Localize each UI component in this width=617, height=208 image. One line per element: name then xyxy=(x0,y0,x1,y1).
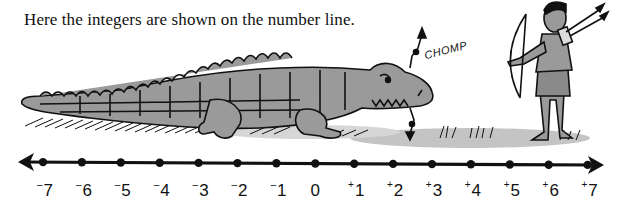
tick-label: –4 xyxy=(154,182,170,199)
tick-digit: 6 xyxy=(82,181,91,200)
tick-digit: 6 xyxy=(549,181,558,200)
tick-digit: 7 xyxy=(44,181,53,200)
tick-digit: 1 xyxy=(277,181,286,200)
tick-label: –5 xyxy=(115,182,131,199)
sign-superscript: – xyxy=(37,179,43,190)
sign-superscript: + xyxy=(387,179,393,190)
sign-superscript: + xyxy=(465,179,471,190)
tick-digit: 1 xyxy=(355,181,364,200)
sign-superscript: + xyxy=(581,179,587,190)
tick-digit: 2 xyxy=(394,181,403,200)
sign-superscript: – xyxy=(154,179,160,190)
tick-dot xyxy=(389,160,397,168)
tick-label: +3 xyxy=(426,182,442,199)
tick-dot xyxy=(545,161,553,169)
tick-digit: 4 xyxy=(472,181,481,200)
sign-superscript: – xyxy=(193,179,199,190)
tick-label: +7 xyxy=(581,182,597,199)
tick-dot xyxy=(467,160,475,168)
tick-digit: 0 xyxy=(311,181,320,200)
sign-superscript: + xyxy=(348,179,354,190)
tick-dot xyxy=(350,160,358,168)
tick-dot xyxy=(156,159,164,167)
tick-dot xyxy=(117,158,125,166)
tick-digit: 3 xyxy=(199,181,208,200)
tick-digit: 5 xyxy=(121,181,130,200)
sign-superscript: + xyxy=(426,179,432,190)
tick-label: +1 xyxy=(348,182,364,199)
tick-label: –1 xyxy=(270,182,286,199)
tick-label: –6 xyxy=(76,182,92,199)
tick-label: –7 xyxy=(37,182,53,199)
tick-dot xyxy=(583,161,591,169)
tick-dot xyxy=(311,159,319,167)
tick-dot xyxy=(78,158,86,166)
tick-label: –2 xyxy=(231,182,247,199)
tick-dots xyxy=(39,158,592,169)
tick-label: +2 xyxy=(387,182,403,199)
tick-dot xyxy=(233,159,241,167)
tick-digit: 5 xyxy=(510,181,519,200)
tick-dot xyxy=(428,160,436,168)
tick-label: +4 xyxy=(465,182,481,199)
tick-digit: 2 xyxy=(238,181,247,200)
tick-label: +5 xyxy=(504,182,520,199)
tick-dot xyxy=(39,158,47,166)
sign-superscript: + xyxy=(504,179,510,190)
sign-superscript: – xyxy=(231,179,237,190)
number-line xyxy=(0,0,617,208)
tick-digit: 7 xyxy=(588,181,597,200)
tick-dot xyxy=(506,160,514,168)
sign-superscript: + xyxy=(543,179,549,190)
tick-label: –3 xyxy=(193,182,209,199)
sign-superscript: – xyxy=(115,179,121,190)
tick-digit: 3 xyxy=(433,181,442,200)
tick-dot xyxy=(194,159,202,167)
tick-label: 0 xyxy=(311,182,320,199)
tick-digit: 4 xyxy=(160,181,169,200)
tick-label: +6 xyxy=(543,182,559,199)
sign-superscript: – xyxy=(270,179,276,190)
tick-dot xyxy=(272,159,280,167)
sign-superscript: – xyxy=(76,179,82,190)
